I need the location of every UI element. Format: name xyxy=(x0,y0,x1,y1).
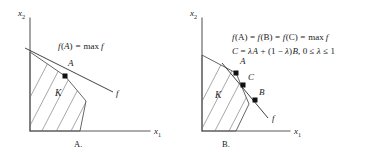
panel-a-set-label: K xyxy=(54,88,62,98)
panel-b-svg: x2 x1 K f A C B f(A)=f(B)=f(C)=maxf C=λA… xyxy=(188,0,377,152)
panel-b-point-c-marker xyxy=(241,83,246,88)
panel-b-y-axis-label: x2 xyxy=(189,8,197,20)
panel-a-point-a-marker xyxy=(63,74,68,79)
panel-a-objective-line xyxy=(25,48,113,92)
panel-b-caption: B. xyxy=(222,139,230,149)
panel-b-region-k xyxy=(188,55,281,152)
panel-a-point-a-label: A xyxy=(67,58,74,68)
panel-b-f-label: f xyxy=(272,113,276,123)
panel-a-svg: x2 x1 K f A f(A)=maxf A. xyxy=(0,0,189,152)
panel-b-formula-line1: f(A)=f(B)=f(C)=maxf xyxy=(232,32,330,42)
panel-b-point-a-label: A xyxy=(239,56,246,66)
panel-b-region-boundary xyxy=(202,55,249,131)
figure-container: x2 x1 K f A f(A)=maxf A. xyxy=(0,0,377,152)
panel-a-hatching xyxy=(8,55,124,152)
panel-a-x-axis-label: x1 xyxy=(153,126,161,138)
panel-b-set-label: K xyxy=(214,90,222,100)
panel-b-point-c-label: C xyxy=(248,72,255,82)
panel-b-point-b-label: B xyxy=(259,87,265,97)
panel-b-formula-line2: C=λA+(1 −λ)B,0 ≤λ≤ 1 xyxy=(232,46,335,56)
panel-b-point-a-marker xyxy=(234,71,239,76)
panel-a-caption: A. xyxy=(74,139,82,149)
panel-a-y-axis-label: x2 xyxy=(17,8,25,20)
panel-a-f-label: f xyxy=(116,88,120,98)
panel-a-region-k xyxy=(8,52,124,152)
panel-a-axes xyxy=(30,18,150,131)
panel-b: x2 x1 K f A C B f(A)=f(B)=f(C)=maxf C=λA… xyxy=(188,0,377,152)
panel-a-formula: f(A)=maxf xyxy=(58,41,105,51)
panel-b-x-axis-label: x1 xyxy=(293,126,301,138)
panel-a: x2 x1 K f A f(A)=maxf A. xyxy=(0,0,189,152)
panel-b-point-b-marker xyxy=(253,98,258,103)
